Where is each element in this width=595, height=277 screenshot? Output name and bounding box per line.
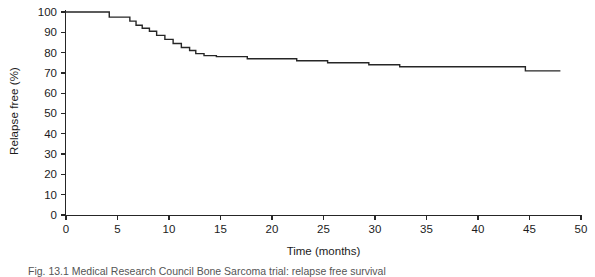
x-axis-tick: 10 (168, 215, 169, 220)
x-axis-tick-label: 50 (575, 223, 588, 235)
y-axis-tick-label: 50 (44, 107, 57, 119)
x-axis-tick: 5 (117, 215, 118, 220)
x-axis-tick-label: 0 (63, 223, 69, 235)
y-axis-tick-label: 40 (44, 128, 57, 140)
figure-caption: Fig. 13.1 Medical Research Council Bone … (28, 265, 588, 277)
x-axis-tick: 45 (529, 215, 530, 220)
x-axis-tick-label: 20 (266, 223, 279, 235)
survival-curve (66, 12, 581, 215)
x-axis-tick-label: 15 (214, 223, 227, 235)
y-axis-title-text: Relapse free (%) (8, 67, 20, 155)
x-axis-title: Time (months) (66, 245, 581, 257)
x-axis-tick-label: 35 (420, 223, 433, 235)
y-axis-tick-label: 100 (38, 6, 57, 18)
x-axis-tick: 0 (65, 215, 66, 220)
y-axis-tick-label: 0 (51, 209, 57, 221)
x-axis-tick-label: 30 (369, 223, 382, 235)
x-axis-tick: 20 (271, 215, 272, 220)
y-axis-tick-label: 10 (44, 189, 57, 201)
x-axis-tick: 25 (323, 215, 324, 220)
y-axis-tick-label: 80 (44, 47, 57, 59)
survival-curve-path (66, 12, 560, 71)
y-axis-tick-label: 20 (44, 168, 57, 180)
x-axis-tick: 35 (426, 215, 427, 220)
y-axis-tick-label: 70 (44, 67, 57, 79)
x-axis-tick: 30 (374, 215, 375, 220)
x-axis-tick: 15 (220, 215, 221, 220)
y-axis-tick-label: 90 (44, 26, 57, 38)
y-axis-title: Relapse free (%) (2, 0, 26, 222)
x-axis-tick-label: 5 (114, 223, 120, 235)
x-axis-tick-label: 25 (317, 223, 330, 235)
plot-area: 0102030405060708090100 05101520253035404… (66, 12, 581, 215)
x-axis-tick-label: 45 (523, 223, 536, 235)
x-axis-tick: 40 (477, 215, 478, 220)
y-axis-tick-label: 30 (44, 148, 57, 160)
x-axis-tick-label: 10 (163, 223, 176, 235)
x-axis-tick: 50 (580, 215, 581, 220)
y-axis-tick-label: 60 (44, 87, 57, 99)
x-axis-tick-label: 40 (472, 223, 485, 235)
